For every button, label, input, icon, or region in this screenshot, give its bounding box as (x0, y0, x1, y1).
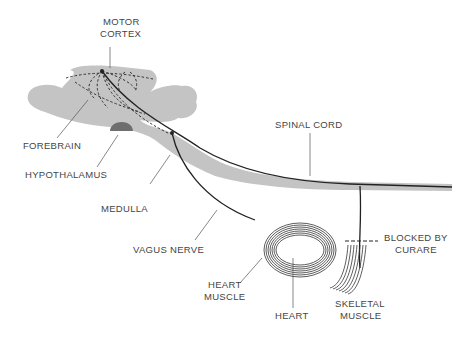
label-spinal-cord: SPINAL CORD (275, 119, 342, 130)
label-hypothalamus: HYPOTHALAMUS (25, 169, 107, 180)
label-skeletal-muscle-2: MUSCLE (340, 310, 381, 321)
label-skeletal-muscle: SKELETAL (335, 298, 385, 309)
label-blocked-by-curare: BLOCKED BY (384, 232, 448, 243)
heart-muscle-rings (264, 223, 336, 277)
label-heart: HEART (275, 310, 309, 321)
skeletal-muscle-fibers (330, 245, 366, 294)
label-vagus-nerve: VAGUS NERVE (133, 244, 204, 255)
label-forebrain: FOREBRAIN (23, 140, 81, 151)
label-motor-cortex: MOTOR (103, 16, 140, 27)
label-heart-muscle-2: MUSCLE (204, 291, 245, 302)
label-blocked-by-curare-2: CURARE (395, 244, 437, 255)
label-medulla: MEDULLA (101, 203, 148, 214)
label-heart-muscle: HEART (208, 279, 242, 290)
label-motor-cortex-2: CORTEX (100, 28, 142, 39)
nervous-system-diagram: MOTOR CORTEX FOREBRAIN HYPOTHALAMUS MEDU… (0, 0, 476, 338)
